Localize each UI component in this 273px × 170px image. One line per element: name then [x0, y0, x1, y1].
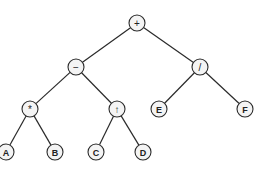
edge-pow-C: [100, 116, 114, 145]
tree-node-div: /: [192, 59, 208, 75]
edge-plus-div: [144, 28, 194, 63]
node-label: E: [156, 105, 162, 115]
node-label: B: [52, 148, 59, 158]
tree-node-D: D: [135, 144, 151, 160]
tree-node-E: E: [151, 101, 167, 117]
edge-mul-A: [10, 116, 26, 145]
tree-node-pow: ↑: [109, 101, 125, 117]
edge-mul-B: [34, 116, 51, 145]
tree-node-C: C: [88, 144, 104, 160]
tree-node-F: F: [237, 101, 253, 117]
node-label: A: [3, 148, 10, 158]
tree-node-minus: −: [68, 59, 84, 75]
edge-plus-minus: [82, 28, 130, 63]
node-label: /: [199, 62, 202, 73]
edge-div-F: [206, 72, 239, 103]
node-label: F: [242, 105, 248, 115]
edge-minus-pow: [82, 73, 112, 104]
edge-minus-mul: [36, 72, 70, 103]
node-label: D: [140, 148, 147, 158]
node-label: −: [73, 62, 79, 73]
tree-edges: [10, 28, 239, 146]
tree-node-A: A: [0, 144, 14, 160]
edge-pow-D: [121, 116, 139, 145]
node-label: C: [93, 148, 100, 158]
edge-div-E: [165, 73, 195, 104]
tree-nodes: +−/*↑EFABCD: [0, 15, 253, 160]
node-label: +: [134, 18, 140, 29]
expression-tree-diagram: +−/*↑EFABCD: [0, 0, 273, 170]
tree-node-B: B: [47, 144, 63, 160]
node-label: ↑: [115, 104, 120, 115]
tree-node-mul: *: [22, 101, 38, 117]
tree-node-plus: +: [129, 15, 145, 31]
node-label: *: [28, 104, 32, 115]
